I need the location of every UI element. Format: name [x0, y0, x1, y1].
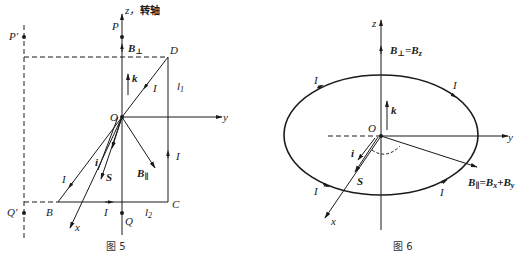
label-O: O [110, 111, 118, 123]
label-B: B [46, 206, 53, 218]
label-I-top-right: I [452, 79, 458, 91]
figure-6-labels: z B⊥=Bz I I k O y i S B∥=Bx+By I I x 图 6 [313, 17, 515, 252]
figure-5-points [22, 35, 124, 215]
point-Q [120, 211, 124, 215]
S-vector [101, 117, 122, 179]
figure-6-caption: 图 6 [393, 241, 413, 252]
label-I-DC: I [175, 150, 181, 162]
label-y: y [507, 131, 513, 143]
label-B-parallel-eq: B∥=Bx+By [467, 176, 515, 190]
current-arrow-OD [145, 83, 148, 87]
B-parallel-vector [122, 117, 155, 168]
label-l2: l2 [145, 206, 152, 220]
label-S: S [106, 171, 112, 183]
figure-5-labels: z， 转轴 P P′ B⊥ D k I l1 O y I i I S B∥ C … [7, 4, 228, 252]
label-x: x [330, 215, 336, 227]
S-vector-double [98, 117, 118, 170]
point-P [120, 35, 124, 39]
label-I-CB: I [103, 206, 109, 218]
label-I-bottom-left: I [313, 185, 319, 197]
label-I-OD: I [152, 82, 158, 94]
S-vector [355, 137, 378, 172]
origin-point [379, 134, 383, 138]
label-C: C [172, 198, 180, 210]
label-l1: l1 [177, 80, 184, 94]
figure-5-caption: 图 5 [106, 241, 126, 252]
point-P-prime [22, 35, 26, 39]
x-axis [70, 117, 122, 228]
label-y: y [222, 111, 228, 123]
rotation-axis-label: 转轴 [140, 4, 160, 16]
figure-5 [24, 14, 222, 240]
label-I-top-left: I [313, 74, 319, 86]
point-Q-prime [22, 211, 26, 215]
label-Q-prime: Q′ [7, 206, 18, 218]
label-I-bottom-right: I [439, 186, 445, 198]
angle-arc [372, 146, 400, 154]
diagram-canvas: z， 转轴 P P′ B⊥ D k I l1 O y I i I S B∥ C … [0, 0, 516, 257]
label-i: i [351, 147, 355, 159]
label-x: x [74, 221, 80, 233]
figure-6-points [379, 134, 383, 138]
label-P: P [111, 20, 119, 32]
origin-point [120, 115, 124, 119]
label-B-perp: B⊥ [127, 42, 143, 56]
loop-segment-BO [58, 117, 122, 202]
label-k: k [132, 72, 138, 84]
label-B-parallel: B∥ [136, 167, 149, 181]
label-I-BO: I [61, 173, 67, 185]
z-axis-label: z [371, 17, 377, 29]
label-Q: Q [125, 215, 133, 227]
z-axis-label: z， [124, 4, 140, 16]
B-parallel-vector [381, 136, 477, 167]
label-B-perp-eq: B⊥=Bz [389, 44, 423, 58]
current-arrow-BO [70, 182, 73, 186]
label-D: D [169, 44, 178, 56]
label-S: S [357, 175, 363, 187]
label-k: k [391, 104, 397, 116]
label-O: O [368, 122, 376, 134]
label-P-prime: P′ [8, 30, 19, 42]
